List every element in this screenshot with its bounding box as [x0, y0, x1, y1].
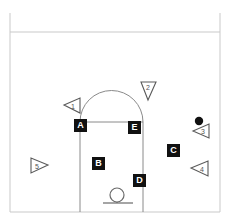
position-label-b[interactable]: B — [92, 157, 105, 170]
player-4-number: 4 — [200, 166, 204, 173]
court-boundary-lines — [10, 13, 220, 212]
player-1-number: 1 — [71, 103, 75, 110]
basketball-court-diagram: 1 2 3 4 5 A B C D E — [0, 0, 229, 224]
court-svg: 1 2 3 4 5 — [0, 0, 229, 224]
player-3-number: 3 — [201, 128, 205, 135]
player-2-number: 2 — [146, 84, 150, 91]
player-2-marker[interactable]: 2 — [141, 82, 156, 100]
player-1-marker[interactable]: 1 — [64, 98, 80, 113]
player-5-marker[interactable]: 5 — [31, 158, 48, 173]
key-paint-area — [80, 91, 143, 212]
player-5-number: 5 — [35, 163, 39, 170]
position-label-a[interactable]: A — [74, 119, 87, 132]
hoop-assembly — [103, 188, 133, 203]
player-5-triangle-icon — [31, 158, 48, 173]
hoop-ring-icon — [110, 188, 124, 202]
position-label-e[interactable]: E — [128, 121, 141, 134]
player-3-marker[interactable]: 3 — [193, 124, 209, 138]
player-4-marker[interactable]: 4 — [191, 161, 208, 176]
basketball-icon — [195, 117, 203, 125]
position-label-c[interactable]: C — [167, 144, 180, 157]
position-label-d[interactable]: D — [133, 174, 146, 187]
free-throw-arc — [80, 91, 143, 122]
